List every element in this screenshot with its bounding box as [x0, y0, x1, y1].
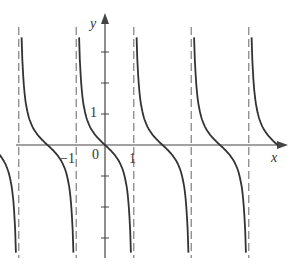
x-tick-label-neg1: −1: [60, 152, 75, 166]
x-tick-label-1: 1: [129, 152, 136, 166]
origin-label: 0: [92, 148, 99, 162]
x-axis-label: x: [271, 151, 277, 165]
function-curve: [0, 145, 16, 253]
x-axis-arrow-icon: [277, 141, 288, 149]
y-tick-label-1: 1: [90, 106, 97, 120]
y-axis-arrow-icon: [101, 13, 109, 24]
chart: y x 0 −1 1 1: [0, 0, 301, 264]
plot-area: [0, 0, 301, 264]
y-axis-label: y: [90, 17, 96, 31]
function-curve: [252, 37, 278, 145]
